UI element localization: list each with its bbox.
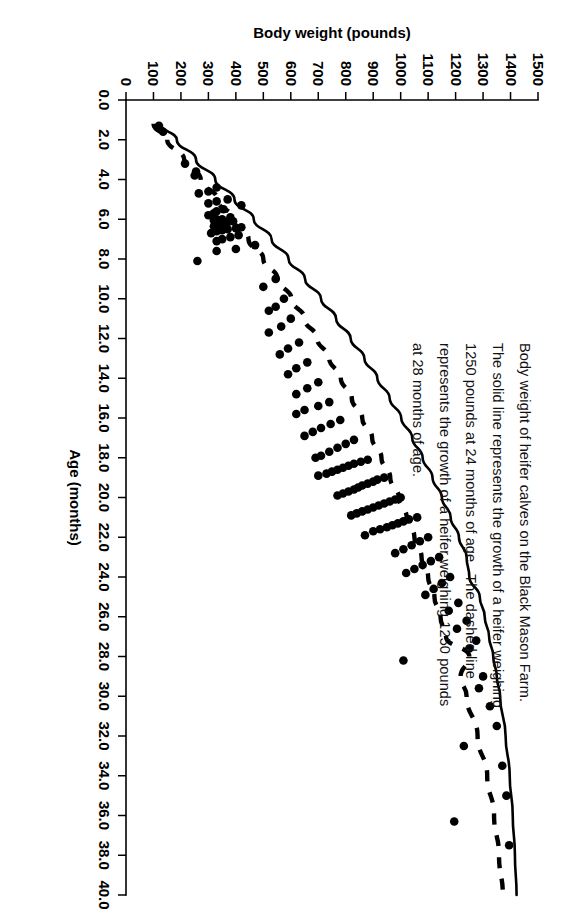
data-point	[265, 306, 274, 315]
data-point	[308, 428, 317, 437]
y-tick-label: 1000	[393, 53, 410, 86]
data-point	[276, 350, 285, 359]
data-point	[317, 424, 326, 433]
y-tick-label: 800	[338, 61, 355, 86]
x-tick-label: 22.0	[96, 523, 113, 552]
chart-figure: 0.02.04.06.08.010.012.014.016.018.020.02…	[0, 0, 578, 913]
data-point	[314, 378, 323, 387]
data-point	[391, 549, 400, 558]
data-point	[450, 817, 459, 826]
data-point	[232, 245, 241, 254]
data-point	[259, 283, 268, 292]
y-tick-label: 400	[228, 61, 245, 86]
data-point	[223, 195, 232, 204]
x-tick-label: 36.0	[96, 801, 113, 830]
x-tick-label: 14.0	[96, 364, 113, 393]
x-tick-label: 26.0	[96, 602, 113, 631]
data-point	[292, 364, 301, 373]
data-point	[341, 440, 350, 449]
data-point	[347, 511, 356, 520]
x-tick-label: 30.0	[96, 682, 113, 711]
x-tick-label: 32.0	[96, 721, 113, 750]
data-point	[493, 722, 502, 731]
data-point	[336, 416, 345, 425]
y-tick-label: 1400	[503, 53, 520, 86]
data-point	[295, 338, 304, 347]
data-point	[277, 322, 286, 331]
data-point	[286, 314, 295, 323]
data-point	[234, 231, 243, 240]
data-point	[303, 384, 312, 393]
y-tick-label: 1500	[530, 53, 547, 86]
x-tick-label: 20.0	[96, 483, 113, 512]
data-point	[311, 453, 320, 462]
data-point	[204, 199, 213, 208]
data-point	[333, 444, 342, 453]
data-point	[303, 358, 312, 367]
data-point	[502, 791, 511, 800]
x-tick-label: 18.0	[96, 443, 113, 472]
y-tick-label: 900	[365, 61, 382, 86]
data-point	[350, 436, 359, 445]
x-tick-label: 28.0	[96, 642, 113, 671]
x-tick-label: 10.0	[96, 284, 113, 313]
y-tick-label: 1100	[420, 53, 437, 86]
data-point	[212, 237, 221, 246]
y-tick-label: 100	[145, 61, 162, 86]
y-tick-label: 1300	[475, 53, 492, 86]
y-tick-label: 0	[118, 78, 135, 86]
figure-rotator: 0.02.04.06.08.010.012.014.016.018.020.02…	[0, 0, 578, 913]
x-tick-label: 4.0	[96, 169, 113, 190]
data-point	[292, 410, 301, 419]
y-tick-label: 500	[255, 61, 272, 86]
data-point	[322, 469, 331, 478]
x-tick-label: 34.0	[96, 761, 113, 790]
data-point	[361, 531, 370, 540]
data-point	[498, 762, 507, 771]
y-tick-label: 200	[173, 61, 190, 86]
data-point	[460, 742, 469, 751]
y-tick-label: 600	[283, 61, 300, 86]
y-tick-label: 300	[200, 61, 217, 86]
data-point	[369, 527, 378, 536]
data-point	[505, 841, 514, 850]
data-point	[212, 197, 221, 206]
x-tick-label: 24.0	[96, 562, 113, 591]
x-tick-label: 40.0	[96, 880, 113, 909]
x-tick-label: 16.0	[96, 403, 113, 432]
data-point	[284, 370, 293, 379]
data-point	[325, 447, 334, 456]
data-point	[325, 398, 334, 407]
data-point	[193, 257, 202, 266]
data-point	[284, 344, 293, 353]
x-tick-label: 12.0	[96, 324, 113, 353]
x-tick-label: 2.0	[96, 129, 113, 150]
data-point	[212, 247, 221, 256]
data-point	[280, 294, 289, 303]
data-point	[265, 328, 274, 337]
data-point	[194, 189, 203, 198]
data-point	[300, 432, 309, 441]
data-point	[300, 406, 309, 415]
y-tick-label: 700	[310, 61, 327, 86]
data-point	[207, 229, 216, 238]
data-point	[333, 491, 342, 500]
data-point	[292, 390, 301, 399]
y-axis-title: Body weight (pounds)	[253, 24, 410, 41]
figure-caption: Body weight of heifer calves on the Blac…	[404, 343, 538, 715]
x-tick-label: 0.0	[96, 90, 113, 111]
x-axis-title: Age (months)	[67, 449, 84, 546]
data-point	[314, 402, 323, 411]
x-tick-label: 8.0	[96, 249, 113, 270]
x-tick-label: 38.0	[96, 841, 113, 870]
x-tick-label: 6.0	[96, 209, 113, 230]
y-tick-label: 1200	[448, 53, 465, 86]
data-point	[314, 471, 323, 480]
data-point	[226, 233, 235, 242]
data-point	[326, 420, 335, 429]
